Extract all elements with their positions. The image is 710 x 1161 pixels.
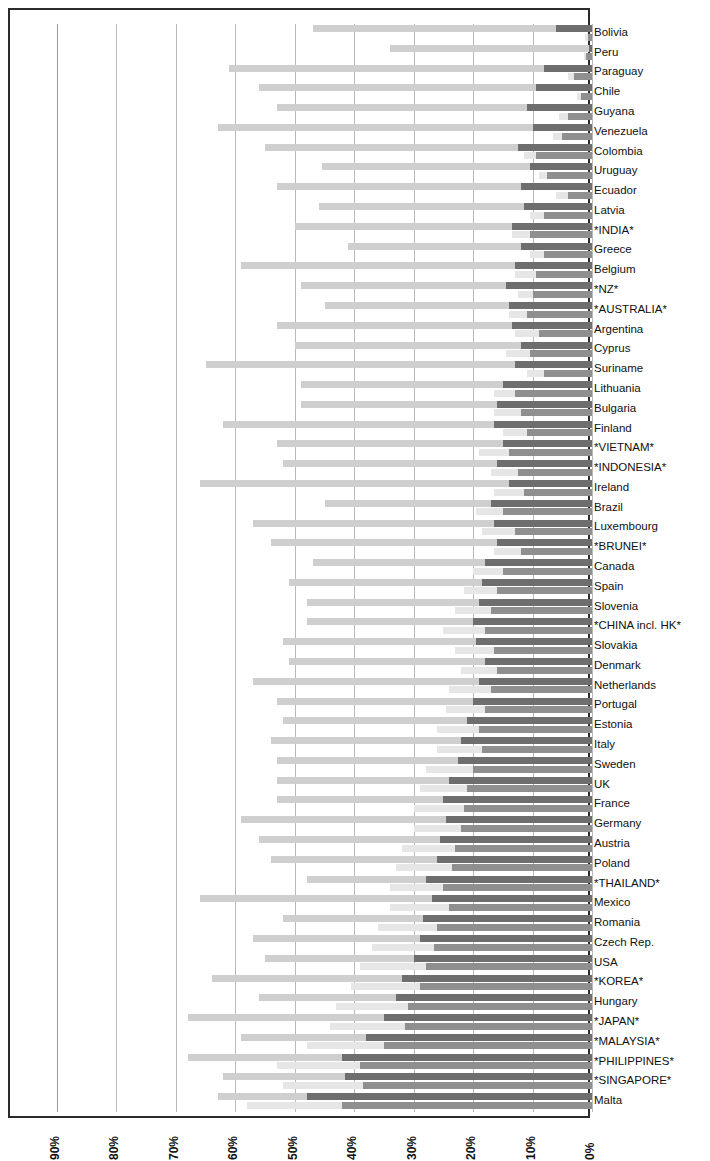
export-bar	[223, 1073, 592, 1080]
import-pc-segment	[449, 904, 592, 911]
category-label: Bolivia	[594, 24, 710, 40]
import-bar	[420, 785, 592, 792]
export-fp-segment	[301, 401, 497, 408]
bar-row	[57, 598, 592, 618]
export-pc-segment	[524, 203, 592, 210]
plot-area	[57, 24, 592, 1112]
export-fp-segment	[289, 579, 482, 586]
import-pc-segment	[539, 330, 593, 337]
import-bar	[568, 73, 592, 80]
import-bar	[414, 805, 592, 812]
bar-row	[57, 795, 592, 815]
import-fp-segment	[464, 587, 497, 594]
import-bar	[556, 192, 592, 199]
import-bar	[473, 568, 592, 575]
export-fp-segment	[271, 539, 497, 546]
bar-row	[57, 182, 592, 202]
import-pc-segment	[363, 1082, 592, 1089]
bar-row	[57, 64, 592, 84]
import-pc-segment	[426, 963, 592, 970]
export-pc-segment	[530, 163, 592, 170]
export-bar	[271, 856, 592, 863]
export-pc-segment	[491, 500, 592, 507]
x-tick-text: 80%	[107, 1136, 121, 1160]
bar-row	[57, 341, 592, 361]
category-label: Spain	[594, 578, 710, 594]
import-fp-segment	[426, 766, 474, 773]
import-fp-segment	[455, 607, 491, 614]
export-bar	[277, 757, 592, 764]
export-bar	[390, 45, 592, 52]
import-bar	[506, 350, 592, 357]
import-pc-segment	[568, 192, 592, 199]
import-fp-segment	[476, 508, 503, 515]
category-label: Guyana	[594, 103, 710, 119]
export-bar	[307, 876, 592, 883]
export-pc-segment	[485, 559, 592, 566]
export-pc-segment	[402, 975, 592, 982]
import-bar	[307, 1042, 592, 1049]
export-fp-segment	[241, 816, 446, 823]
export-pc-segment	[544, 65, 592, 72]
import-bar	[426, 766, 592, 773]
export-bar	[325, 500, 592, 507]
export-pc-segment	[497, 460, 592, 467]
category-label: Ecuador	[594, 182, 710, 198]
import-fp-segment	[553, 133, 562, 140]
export-bar	[295, 342, 592, 349]
export-bar	[313, 559, 592, 566]
export-pc-segment	[512, 223, 592, 230]
x-tick-text: 70%	[167, 1136, 181, 1160]
import-pc-segment	[547, 172, 592, 179]
export-pc-segment	[527, 104, 592, 111]
export-bar	[322, 163, 592, 170]
export-fp-segment	[307, 618, 473, 625]
import-pc-segment	[503, 568, 592, 575]
category-label: Argentina	[594, 321, 710, 337]
export-pc-segment	[423, 915, 592, 922]
import-fp-segment	[503, 429, 527, 436]
bar-row	[57, 499, 592, 519]
import-fp-segment	[351, 983, 419, 990]
category-label: *MALAYSIA*	[594, 1033, 710, 1049]
import-pc-segment	[544, 370, 592, 377]
bar-row	[57, 281, 592, 301]
export-pc-segment	[446, 816, 592, 823]
export-bar	[319, 203, 592, 210]
import-fp-segment	[530, 251, 545, 258]
export-fp-segment	[313, 559, 485, 566]
import-bar	[283, 1082, 592, 1089]
category-label: Germany	[594, 815, 710, 831]
import-fp-segment	[277, 1062, 360, 1069]
import-fp-segment	[530, 212, 545, 219]
import-pc-segment	[482, 746, 592, 753]
category-label: Brazil	[594, 499, 710, 515]
bar-row	[57, 756, 592, 776]
import-fp-segment	[494, 548, 521, 555]
bar-row	[57, 934, 592, 954]
export-fp-segment	[223, 421, 493, 428]
export-fp-segment	[283, 638, 476, 645]
export-pc-segment	[518, 144, 592, 151]
export-pc-segment	[509, 302, 592, 309]
category-label: Cyprus	[594, 340, 710, 356]
bar-row	[57, 360, 592, 380]
export-bar	[253, 678, 592, 685]
import-pc-segment	[405, 1023, 592, 1030]
import-bar	[330, 1023, 592, 1030]
import-bar	[553, 133, 592, 140]
export-bar	[283, 717, 592, 724]
export-pc-segment	[437, 856, 592, 863]
export-bar	[259, 84, 592, 91]
bar-row	[57, 439, 592, 459]
export-pc-segment	[506, 282, 592, 289]
export-pc-segment	[494, 421, 592, 428]
export-fp-segment	[277, 777, 449, 784]
plot-frame	[8, 8, 590, 1118]
export-fp-segment	[277, 183, 521, 190]
export-bar	[200, 480, 592, 487]
import-pc-segment	[473, 766, 592, 773]
category-label: *INDONESIA*	[594, 459, 710, 475]
category-label: Lithuania	[594, 380, 710, 396]
bar-row	[57, 954, 592, 974]
